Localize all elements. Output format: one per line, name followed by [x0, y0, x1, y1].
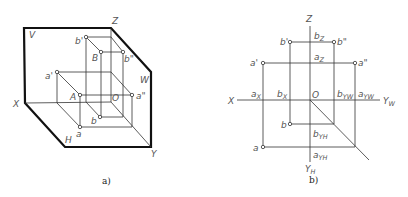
label-b-dprime: b" — [124, 54, 134, 64]
label-bz: bZ — [314, 31, 325, 43]
label-axis-z: Z — [305, 14, 313, 24]
label-axis-yw: YW — [383, 96, 396, 108]
label-axis-z: Z — [111, 16, 119, 26]
label-axis-x: X — [227, 96, 235, 106]
label-origin: O — [312, 90, 319, 100]
label-ayw: aYW — [358, 89, 374, 101]
label-plane-h: H — [65, 135, 72, 145]
label-b-dprime: b" — [337, 37, 347, 47]
point-a-dprime — [130, 93, 133, 96]
label-b: b — [281, 120, 287, 130]
label-a-dprime: a" — [358, 58, 368, 68]
label-byw: bYW — [337, 89, 354, 101]
point-a-prime — [261, 61, 264, 64]
label-b-prime: b' — [75, 36, 83, 46]
label-ayh: aYH — [313, 150, 327, 162]
point-b-projection-box — [86, 37, 123, 117]
caption-b: b) — [309, 175, 318, 185]
label-ax: aX — [251, 89, 262, 101]
point-a-prime — [55, 70, 58, 73]
label-plane-v: V — [29, 30, 36, 40]
label-a: a — [253, 143, 259, 153]
label-b-prime: b' — [280, 37, 288, 47]
45-degree-line — [310, 100, 369, 160]
label-a-prime: a' — [250, 58, 258, 68]
label-B: B — [92, 53, 98, 63]
point-A — [78, 93, 81, 96]
caption-a: a) — [102, 176, 111, 186]
label-axis-x: X — [12, 99, 20, 109]
label-origin: O — [112, 93, 119, 103]
point-a-dprime — [353, 61, 356, 64]
point-b-prime — [84, 35, 87, 38]
label-axis-y: Y — [151, 149, 158, 159]
label-byh: bYH — [313, 129, 328, 141]
point-b-dprime — [332, 40, 335, 43]
point-b — [98, 115, 101, 118]
label-az: aZ — [314, 52, 325, 64]
label-a: a — [76, 129, 82, 139]
label-b: b — [91, 116, 97, 126]
point-b — [288, 122, 291, 125]
y-axis — [111, 102, 151, 147]
label-A: A — [69, 92, 76, 102]
projection-figure: V W H Z X Y O a' A a" a b' B b" b a) — [0, 0, 408, 197]
point-b-prime — [288, 40, 291, 43]
x-axis — [25, 102, 111, 103]
figure-b-orthographic: Z X O YW YH a' a" a b' b" b aX bX aZ bZ … — [227, 14, 396, 185]
label-bx: bX — [277, 89, 288, 101]
point-B — [99, 50, 102, 53]
label-plane-w: W — [140, 75, 150, 85]
point-a — [261, 145, 264, 148]
label-a-prime: a' — [45, 71, 53, 81]
figure-a-pictorial: V W H Z X Y O a' A a" a b' B b" b a) — [12, 16, 158, 186]
label-a-dprime: a" — [136, 91, 146, 101]
planes-outline — [24, 28, 151, 147]
